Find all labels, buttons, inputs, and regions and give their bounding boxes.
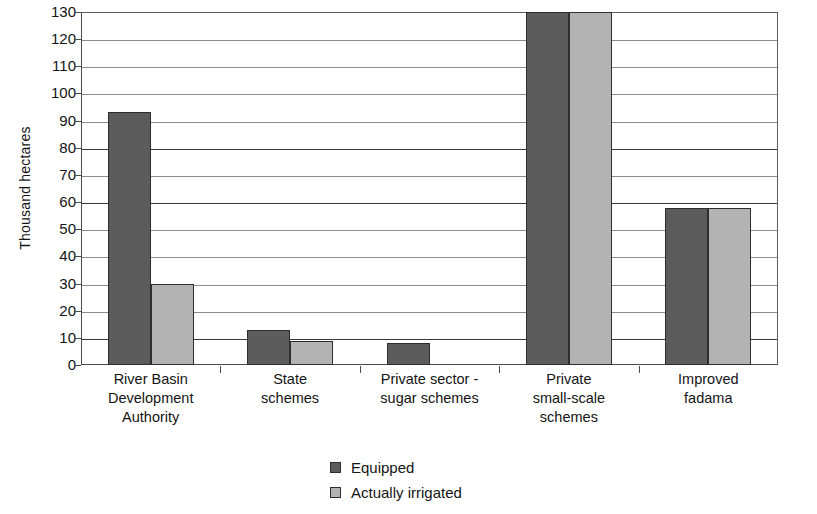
y-axis-tick-label: 40 [34,248,76,263]
bar-actually-irrigated [290,341,333,365]
chart-legend: EquippedActually irrigated [330,455,590,505]
x-axis-tick [499,366,500,373]
legend-item[interactable]: Equipped [330,455,590,480]
x-axis-tick-label-line: Private sector - [360,370,499,389]
legend-label: Equipped [351,459,414,476]
y-axis-tick-label: 130 [34,4,76,19]
x-axis-tick-label-line: Development [81,389,220,408]
y-axis-tick-label: 60 [34,194,76,209]
y-axis-tick [74,148,81,149]
x-axis-tick-label: Private sector -sugar schemes [360,370,499,408]
x-axis-tick-label-line: Private [499,370,638,389]
y-axis-tick [74,365,81,366]
y-axis-tick [74,284,81,285]
y-axis-tick [74,12,81,13]
y-axis-tick [74,311,81,312]
y-axis-tick [74,93,81,94]
y-axis-tick-label: 100 [34,85,76,100]
legend-item[interactable]: Actually irrigated [330,480,590,505]
y-axis-tick-labels: 1301201101009080706050403020100 [34,0,76,380]
y-axis-tick [74,338,81,339]
bar-equipped [387,343,430,365]
bar-equipped [247,330,290,365]
x-axis-tick-label-line: schemes [499,408,638,427]
legend-label: Actually irrigated [351,484,462,501]
y-axis-tick-label: 70 [34,167,76,182]
bar-actually-irrigated [708,208,751,365]
x-axis-tick-label-line: sugar schemes [360,389,499,408]
y-axis-tick [74,229,81,230]
x-axis-tick-label-line: State [220,370,359,389]
y-axis-tick [74,66,81,67]
y-axis-title: Thousand hectares [17,68,33,308]
x-axis-tick-label: River BasinDevelopmentAuthority [81,370,220,427]
y-axis-tick [74,202,81,203]
bars-layer [81,12,778,365]
x-axis-tick-label-line: small-scale [499,389,638,408]
y-axis-tick-label: 90 [34,113,76,128]
legend-swatch-icon [330,462,341,473]
x-axis-tick-label-line: schemes [220,389,359,408]
x-axis-tick [639,366,640,373]
y-axis-tick-label: 10 [34,330,76,345]
y-axis-tick-label: 0 [34,357,76,372]
bar-actually-irrigated [151,284,194,365]
y-axis-tick [74,39,81,40]
x-axis-tick-label-line: River Basin [81,370,220,389]
y-axis-tick-label: 20 [34,303,76,318]
legend-swatch-icon [330,487,341,498]
y-axis-tick-label: 30 [34,276,76,291]
y-axis-tick-label: 120 [34,31,76,46]
x-axis-tick [360,366,361,373]
x-axis-tick-label-line: Authority [81,408,220,427]
x-axis-tick-labels: River BasinDevelopmentAuthorityStatesche… [81,370,778,448]
bar-chart: Thousand hectares 1301201101009080706050… [0,0,817,514]
y-axis-tick [74,121,81,122]
bar-equipped [526,12,569,365]
x-axis-tick-label: Stateschemes [220,370,359,408]
x-axis-tick-label-line: Improved [639,370,778,389]
bar-equipped [665,208,708,365]
y-axis-tick-label: 80 [34,140,76,155]
y-axis-tick-label: 110 [34,58,76,73]
y-axis-tick [74,175,81,176]
x-axis-tick-label: Privatesmall-scaleschemes [499,370,638,427]
x-axis-tick-label: Improvedfadama [639,370,778,408]
x-axis-tick [220,366,221,373]
bar-equipped [108,112,151,365]
y-axis-tick-label: 50 [34,221,76,236]
y-axis-tick [74,256,81,257]
bar-actually-irrigated [569,12,612,365]
x-axis-tick-label-line: fadama [639,389,778,408]
